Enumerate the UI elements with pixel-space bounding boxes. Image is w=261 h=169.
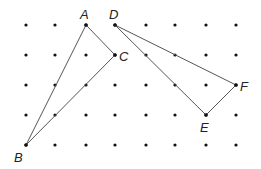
grid-dot [173,23,176,26]
grid-dot [234,53,237,56]
grid-dot [84,53,87,56]
vertex-labels: ABCDEF [14,7,249,165]
label-c: C [119,49,129,64]
grid-dot [53,23,56,26]
grid-dot [24,83,27,86]
grid-dot [144,23,147,26]
grid-dot [53,53,56,56]
grid-dot [24,53,27,56]
grid-dot [53,143,56,146]
grid-dot [204,83,207,86]
label-a: A [79,7,89,22]
grid-dot [113,143,116,146]
vertex-c [113,53,117,57]
grid-dot [173,143,176,146]
grid-dot [204,53,207,56]
vertex-d [113,23,117,27]
grid-dot [144,83,147,86]
dot-grid-diagram: ABCDEF [0,0,261,169]
triangle-def [115,25,236,115]
grid-dot [84,143,87,146]
grid-dot [173,113,176,116]
grid-dot [24,23,27,26]
label-f: F [240,79,249,94]
vertex-e [204,113,208,117]
grid-dot [144,143,147,146]
label-b: B [14,150,23,165]
triangle-abc [26,25,115,145]
vertex-f [234,83,238,87]
grid-dot [24,113,27,116]
grid-dot [234,113,237,116]
grid-dot [234,143,237,146]
grid-dot [204,143,207,146]
vertex-b [24,143,28,147]
grid-dot [84,113,87,116]
grid-dot [144,113,147,116]
grid-dot [113,113,116,116]
label-d: D [109,7,118,22]
grid-dot [204,23,207,26]
grid-dot [234,23,237,26]
vertex-a [84,23,88,27]
label-e: E [200,120,209,135]
grid-dot [113,83,116,86]
